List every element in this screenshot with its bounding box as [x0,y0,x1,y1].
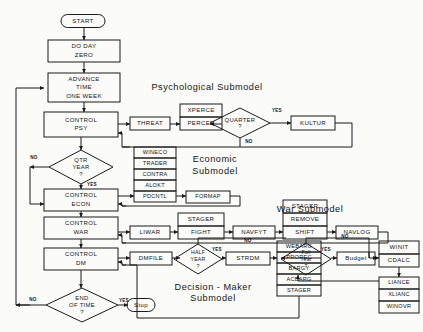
shape-text-line: Budget [345,254,366,261]
shape-text-line: SHIFT [295,228,314,235]
flowchart-canvas: DO DAYZEROADVANCETIMEONE WEEKCONTROLPSYT… [0,0,423,332]
edge-label-halfyear-yes: YES [212,247,222,252]
shape-text-line: TRADER [143,160,168,166]
shape-text-line: PDCNTL [143,193,167,199]
shape-text-line: LIANCE [388,279,410,285]
shape-text-line: ? [304,263,307,269]
shape-text-line: DMFILE [139,254,163,261]
shape-text-line: ACBARG [286,276,311,282]
shape-text-line: WINOVR [387,303,412,309]
terminator-label-start: START [72,17,93,24]
flowchart-svg: DO DAYZEROADVANCETIMEONE WEEKCONTROLPSYT… [0,0,423,332]
shape-text-line: XPERCE [187,106,214,113]
shape-text-line: PSY [74,124,87,131]
shape-text-line: CONTROL [65,116,98,123]
shape-text-line: YEAR [72,164,89,170]
shape-text-line: STAGER [287,287,311,293]
section-title-econ: Economic [193,154,237,164]
shape-text-line: ONE WEEK [66,92,102,99]
shape-text-line: NAVFYT [241,228,267,235]
shape-text-line: ECON [71,200,90,207]
edge-label-endtime-yes: YES [119,298,129,303]
shape-text-line: ALOKT [145,182,165,188]
shape-text-line: ? [80,309,84,315]
shape-text-line: THREAT [137,119,163,126]
edge-label-endtime-no: NO [29,297,37,302]
shape-text-line: WAR [73,228,88,235]
terminator-label-stop: Stop [134,301,148,308]
shape-text-line: HALF [191,249,205,255]
shape-text-line: CDALC [388,256,411,263]
conn-qtr-no-to-econ-return [30,167,44,204]
shape-text-line: QTR [74,157,87,163]
shape-text-line: CONTROL [65,219,98,226]
shape-text-line: WINECO [143,149,168,155]
edge-label-qtr-no: NO [30,155,38,160]
shape-text-line: ? [238,123,242,129]
shape-text-line: ZERO [75,51,93,58]
conn-fullyear-no-into-cdalc [369,252,377,258]
conn-stager3-into-dm [118,262,126,265]
shape-text-line: YEAR [191,256,206,262]
shape-text-line: LIWAR [140,228,161,235]
shape-text-line: QUARTER [225,117,256,123]
shape-text-line: FORMAP [195,193,220,199]
shape-text-line: ? [79,171,83,177]
shape-text-line: TIME [76,83,92,90]
edge-label-quarter-yes: YES [272,108,282,113]
shape-text-line: KULTUR [300,119,326,126]
shape-text-line: END [75,295,88,301]
conn-formap-return [122,196,240,206]
shape-text-line: DO DAY [71,42,96,49]
shape-text-line: ? [196,263,199,269]
conn-kultur-return [122,123,352,147]
section-title-dm-line2: Submodel [190,293,235,303]
conn-return-into-controlpsy [118,133,130,147]
shape-text-line: Year [300,256,311,262]
conn-endtime-no-loop [16,88,46,305]
shape-text-line: PERCEP [187,119,214,126]
section-title-psych: Psychological Submodel [151,82,262,92]
edge-label-fullyear-no: NO [341,234,349,239]
shape-text-line: DM [76,259,86,266]
edge-label-quarter-no: NO [245,139,253,144]
shape-text-line: WINIT [389,243,408,250]
shape-text-line: CONTROL [65,250,98,257]
shape-text-line: STAGER [188,215,215,222]
shape-text-line: STRDM [236,254,259,261]
shape-text-line: ADVANCE [68,75,99,82]
shape-text-line: Full [301,249,310,255]
edge-label-fullyear-yes: YES [321,247,331,252]
shape-text-line: REMOVE [291,215,320,222]
shape-text-line: XLIANC [388,291,410,297]
section-title-dm: Decision - Maker [175,282,252,292]
section-title-war: War Submodel [277,204,343,214]
edge-label-halfyear-no: NO [244,238,252,243]
conn-formap-into-econ [118,204,126,206]
edge-label-qtr-yes: YES [87,182,97,187]
shape-text-line: CONTROL [65,191,98,198]
shape-text-line: FIGHT [191,228,211,235]
shape-text-line: CONTRA [142,171,167,177]
section-title-econ-line2: Submodel [192,166,237,176]
conn-navlog-into-war [118,235,126,243]
shape-text-line: OF TIME [69,302,95,308]
